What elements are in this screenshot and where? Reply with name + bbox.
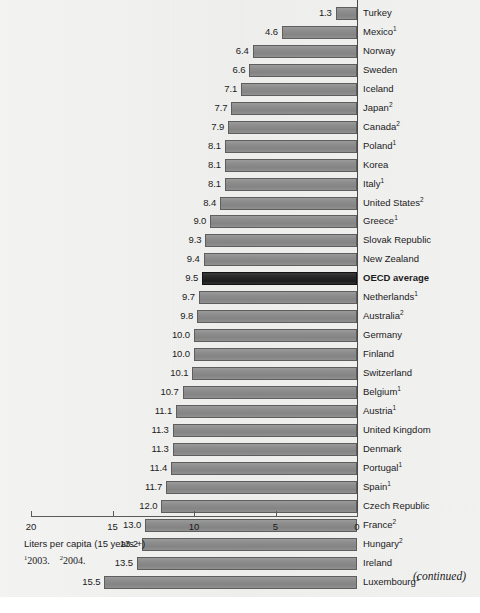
category-label-text: Finland [363,348,394,359]
bar [166,481,357,494]
axis-caption: Liters per capita (15 years +) [24,538,145,549]
x-axis-tick [31,511,32,517]
bar-value-label: 7.7 [215,101,228,114]
category-label-text: United Kingdom [363,424,431,435]
category-label-text: Greece [363,215,394,226]
category-label: Slovak Republic [363,233,431,247]
x-axis-tick [276,511,277,517]
category-label-text: Luxembourg [363,576,416,587]
category-label-text: OECD average [363,272,429,283]
bar-value-label: 4.6 [265,25,278,38]
bar-value-label: 6.4 [236,44,249,57]
category-label-text: Denmark [363,443,402,454]
category-label-text: Italy [363,178,380,189]
category-footnote-marker: 1 [393,25,397,32]
chart-row: 11.3United Kingdom [0,421,480,440]
category-label-text: United States [363,197,420,208]
category-label-text: Netherlands [363,291,414,302]
bar-value-label: 8.1 [208,177,221,190]
bar [183,386,357,399]
category-footnote-marker: 1 [397,385,401,392]
bar [137,557,357,570]
bar [176,405,357,418]
footnotes: 12003.22004. [24,555,86,566]
category-label: United States2 [363,196,424,210]
chart-row: 10.0Finland [0,345,480,364]
category-label-text: Australia [363,310,400,321]
chart-row: 9.8Australia2 [0,307,480,326]
chart-row: 9.4New Zealand [0,250,480,269]
category-label: Austria1 [363,404,396,418]
bar [253,45,357,58]
x-axis-tick-label: 20 [26,521,37,532]
x-axis-tick [194,511,195,517]
x-axis-tick-label: 10 [189,521,200,532]
chart-row: 6.4Norway [0,42,480,61]
category-label: OECD average [363,271,429,285]
bar [282,26,357,39]
category-label: United Kingdom [363,423,431,437]
category-footnote-marker: 2 [396,120,400,127]
category-label-text: Austria [363,405,393,416]
category-label: Korea [363,158,388,172]
category-label-text: Sweden [363,64,397,75]
category-footnote-marker: 1 [393,138,397,145]
bar [171,462,357,475]
category-label: Italy1 [363,177,384,191]
bar [241,83,357,96]
chart-row: 7.1Iceland [0,80,480,99]
bar [228,121,357,134]
bar-value-label: 10.0 [172,347,190,360]
x-axis: 20151050 [0,510,480,540]
category-label: Netherlands1 [363,290,418,304]
continued-label: (continued) [413,570,466,582]
bar-value-label: 9.7 [182,290,195,303]
bar-value-label: 1.3 [319,6,332,19]
category-label: Ireland [363,556,392,570]
bar-value-label: 7.1 [224,82,237,95]
category-label-text: Ireland [363,557,392,568]
category-label: Belgium1 [363,385,401,399]
category-label: Germany [363,328,402,342]
chart-row: 7.7Japan2 [0,99,480,118]
chart-row: 9.3Slovak Republic [0,231,480,250]
scanned-page: 1.3Turkey4.6Mexico16.4Norway6.6Sweden7.1… [0,0,480,613]
bar-value-label: 9.5 [185,271,198,284]
chart-row: 9.0Greece1 [0,212,480,231]
bar-value-label: 9.3 [189,233,202,246]
bar [204,253,357,266]
chart-row: 11.7Spain1 [0,478,480,497]
category-label-text: Slovak Republic [363,234,431,245]
category-footnote-marker: 1 [394,214,398,221]
category-label-text: Poland [363,140,393,151]
category-footnote-marker: 2 [400,309,404,316]
chart-row: 8.4United States2 [0,194,480,213]
bar-value-label: 11.7 [145,480,162,493]
x-axis-tick [357,511,358,517]
chart-row: 8.1Italy1 [0,175,480,194]
category-footnote-marker: 2 [420,195,424,202]
chart-row: 6.6Sweden [0,61,480,80]
category-label-text: Germany [363,329,402,340]
category-label: Norway [363,44,395,58]
category-label-text: New Zealand [363,253,419,264]
category-label: Iceland [363,82,394,96]
category-label: Australia2 [363,309,404,323]
bar [192,367,357,380]
bar [173,443,357,456]
bar [199,291,357,304]
bar-value-label: 11.4 [150,461,167,474]
category-label: Greece1 [363,214,398,228]
bar-value-label: 6.6 [233,63,246,76]
bar-value-label: 10.1 [170,366,188,379]
bar-value-label: 13.5 [115,556,133,569]
chart-row: 9.7Netherlands1 [0,288,480,307]
category-label-text: Korea [363,159,388,170]
category-label: Canada2 [363,120,400,134]
category-label: Spain1 [363,480,391,494]
bar [173,424,357,437]
chart-row: 15.5Luxembourg1 [0,573,480,592]
zero-axis-line [357,0,358,513]
category-label: Sweden [363,63,397,77]
category-footnote-marker: 1 [398,461,402,468]
